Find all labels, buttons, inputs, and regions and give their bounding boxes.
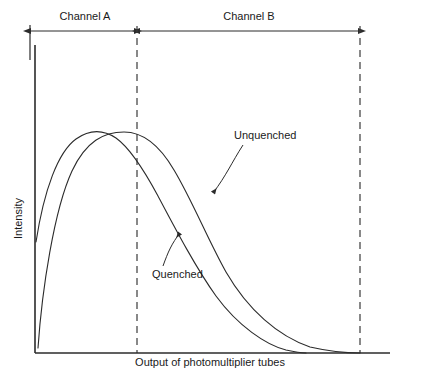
channel-a-span-arrow: [30, 25, 135, 60]
unquenched-curve-label: Unquenched: [234, 130, 296, 141]
curve-unquenched: [38, 132, 360, 353]
channel-b-label: Channel B: [219, 11, 279, 22]
quenched-leader-line: [163, 233, 180, 266]
figure-container: Channel A Channel B Unquenched Quenched …: [0, 0, 428, 373]
channel-a-label: Channel A: [55, 11, 115, 22]
unquenched-leader-line: [213, 145, 243, 193]
x-axis-label: Output of photomultiplier tubes: [95, 357, 325, 368]
y-axis-label: Intensity: [13, 189, 24, 249]
quenched-curve-label: Quenched: [152, 269, 203, 280]
plot-canvas: [0, 0, 428, 373]
